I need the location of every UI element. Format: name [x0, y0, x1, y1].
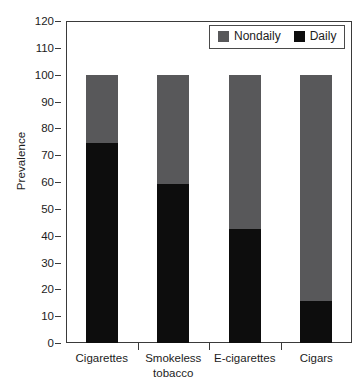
prevalence-stacked-bar-chart: Prevalence 1201101009080706050403020100 … — [0, 0, 363, 391]
y-axis-tick-label: 50 — [14, 201, 54, 217]
bar-group[interactable] — [86, 21, 118, 343]
bar-segment-nondaily[interactable] — [157, 75, 189, 184]
x-axis-tick-label-line: tobacco — [132, 366, 216, 381]
y-axis-tick-mark — [55, 343, 61, 344]
y-axis-tick-mark — [55, 209, 61, 210]
y-axis-tick-mark — [55, 155, 61, 156]
y-axis-tick-label: 100 — [14, 67, 54, 83]
x-axis-tick-mark — [281, 343, 282, 350]
x-axis-tick-label: Cigars — [275, 351, 359, 366]
y-axis-tick-mark — [55, 48, 61, 49]
bar-group[interactable] — [300, 21, 332, 343]
x-axis-tick-mark — [209, 343, 210, 350]
y-axis-tick-label: 30 — [14, 255, 54, 271]
bars-layer — [66, 21, 352, 343]
bar-segment-nondaily[interactable] — [229, 75, 261, 229]
y-axis-tick-label: 70 — [14, 147, 54, 163]
y-axis-tick-mark — [55, 236, 61, 237]
legend-swatch-nondaily — [218, 31, 229, 42]
legend-entry-label: Nondaily — [234, 30, 281, 43]
y-axis-tick-label: 40 — [14, 228, 54, 244]
bar-segment-nondaily[interactable] — [86, 75, 118, 143]
bar-segment-daily[interactable] — [157, 184, 189, 343]
legend-entry[interactable]: Daily — [294, 30, 337, 43]
legend-entry[interactable]: Nondaily — [218, 30, 281, 43]
y-axis-tick-label: 20 — [14, 281, 54, 297]
bar-segment-nondaily[interactable] — [300, 75, 332, 301]
y-axis-tick-mark — [55, 21, 61, 22]
bar-group[interactable] — [229, 21, 261, 343]
legend-swatch-daily — [294, 31, 305, 42]
y-axis-tick-mark — [55, 75, 61, 76]
y-axis-tick-label: 110 — [14, 40, 54, 56]
bar-group[interactable] — [157, 21, 189, 343]
y-axis-tick-mark — [55, 128, 61, 129]
y-axis-tick-mark — [55, 182, 61, 183]
bar-segment-daily[interactable] — [300, 301, 332, 343]
y-axis-tick-mark — [55, 316, 61, 317]
y-axis-tick-mark — [55, 289, 61, 290]
bar-segment-daily[interactable] — [86, 143, 118, 343]
chart-legend: NondailyDaily — [209, 25, 345, 49]
y-axis-tick-label: 60 — [14, 174, 54, 190]
bar-segment-daily[interactable] — [229, 229, 261, 343]
x-axis-tick-label-line: Cigars — [275, 351, 359, 366]
legend-entry-label: Daily — [310, 30, 337, 43]
y-axis-tick-label: 80 — [14, 120, 54, 136]
y-axis-tick-label: 120 — [14, 13, 54, 29]
y-axis-tick-label: 10 — [14, 308, 54, 324]
y-axis-tick-mark — [55, 263, 61, 264]
x-axis-tick-mark — [138, 343, 139, 350]
y-axis-tick-mark — [55, 102, 61, 103]
y-axis-tick-label: 0 — [14, 335, 54, 351]
y-axis-tick-label: 90 — [14, 94, 54, 110]
